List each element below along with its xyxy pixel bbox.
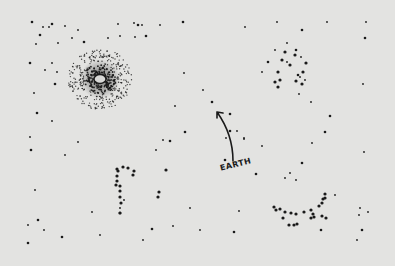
constellations — [114, 50, 327, 226]
arrow-icon — [217, 112, 233, 161]
galaxy-cluster — [68, 50, 132, 110]
star-field-sketch: EARTH — [0, 0, 395, 266]
star-field — [0, 0, 395, 266]
scattered-stars — [27, 21, 369, 245]
